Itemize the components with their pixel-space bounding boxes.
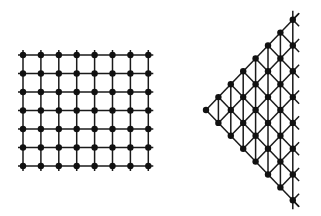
lattice-node	[290, 120, 296, 126]
lattice-node	[20, 126, 26, 132]
lattice-node	[203, 107, 209, 113]
lattice-node	[20, 89, 26, 95]
lattice-node	[265, 120, 271, 126]
lattice-node	[215, 120, 221, 126]
lattice-node	[38, 126, 44, 132]
lattice-node	[290, 17, 296, 23]
lattice-node	[38, 70, 44, 76]
lattice-node	[240, 146, 246, 152]
lattice-node	[20, 163, 26, 169]
lattice-node	[228, 107, 234, 113]
lattice-node	[56, 70, 62, 76]
lattice-node	[74, 163, 80, 169]
lattice-node	[277, 184, 283, 190]
lattice-node	[74, 107, 80, 113]
lattice-node	[240, 120, 246, 126]
lattice-node	[56, 89, 62, 95]
lattice-node	[277, 55, 283, 61]
lattice-node	[252, 107, 258, 113]
lattice-node	[290, 94, 296, 100]
lattice-node	[20, 107, 26, 113]
lattice-node	[74, 144, 80, 150]
lattice-node	[91, 107, 97, 113]
lattice-node	[265, 68, 271, 74]
lattice-node	[109, 107, 115, 113]
lattice-node	[91, 144, 97, 150]
lattice-node	[127, 52, 133, 58]
lattice-node	[252, 158, 258, 164]
lattice-node	[74, 52, 80, 58]
triangular-lattice	[203, 11, 299, 210]
lattice-node	[127, 163, 133, 169]
square-lattice	[18, 50, 153, 171]
lattice-node	[109, 144, 115, 150]
lattice-node	[91, 70, 97, 76]
lattice-node	[91, 126, 97, 132]
lattice-node	[109, 163, 115, 169]
lattice-node	[38, 107, 44, 113]
lattice-node	[38, 163, 44, 169]
lattice-node	[290, 171, 296, 177]
lattice-node	[145, 70, 151, 76]
lattice-node	[277, 107, 283, 113]
lattice-node	[127, 89, 133, 95]
lattice-node	[56, 144, 62, 150]
lattice-node	[56, 126, 62, 132]
lattice-node	[127, 144, 133, 150]
lattice-node	[240, 94, 246, 100]
lattice-node	[109, 126, 115, 132]
lattice-node	[20, 144, 26, 150]
lattice-node	[145, 163, 151, 169]
lattice-node	[74, 126, 80, 132]
lattice-node	[265, 146, 271, 152]
lattice-node	[20, 70, 26, 76]
lattice-node	[74, 89, 80, 95]
lattice-node	[91, 89, 97, 95]
lattice-node	[215, 94, 221, 100]
lattice-node	[38, 52, 44, 58]
lattice-node	[290, 197, 296, 203]
lattice-node	[252, 81, 258, 87]
lattice-node	[277, 29, 283, 35]
lattice-node	[56, 107, 62, 113]
lattice-node	[252, 55, 258, 61]
lattice-node	[145, 126, 151, 132]
lattice-node	[91, 52, 97, 58]
lattice-node	[38, 144, 44, 150]
lattice-node	[20, 52, 26, 58]
lattice-node	[265, 171, 271, 177]
lattice-node	[145, 107, 151, 113]
lattice-node	[252, 133, 258, 139]
lattice-diagram-canvas	[0, 0, 321, 216]
lattice-node	[127, 126, 133, 132]
lattice-node	[145, 52, 151, 58]
lattice-node	[228, 81, 234, 87]
lattice-node	[265, 42, 271, 48]
lattice-node	[277, 133, 283, 139]
lattice-node	[127, 107, 133, 113]
lattice-node	[145, 89, 151, 95]
lattice-node	[277, 81, 283, 87]
lattice-node	[290, 146, 296, 152]
lattice-node	[56, 163, 62, 169]
lattice-node	[228, 133, 234, 139]
lattice-node	[290, 42, 296, 48]
lattice-node	[127, 70, 133, 76]
lattice-node	[290, 68, 296, 74]
lattice-node	[74, 70, 80, 76]
lattice-node	[56, 52, 62, 58]
lattice-node	[277, 158, 283, 164]
lattice-node	[38, 89, 44, 95]
lattice-node	[109, 52, 115, 58]
lattice-node	[109, 89, 115, 95]
lattice-node	[91, 163, 97, 169]
lattice-node	[265, 94, 271, 100]
lattice-node	[145, 144, 151, 150]
lattice-node	[109, 70, 115, 76]
lattice-node	[240, 68, 246, 74]
